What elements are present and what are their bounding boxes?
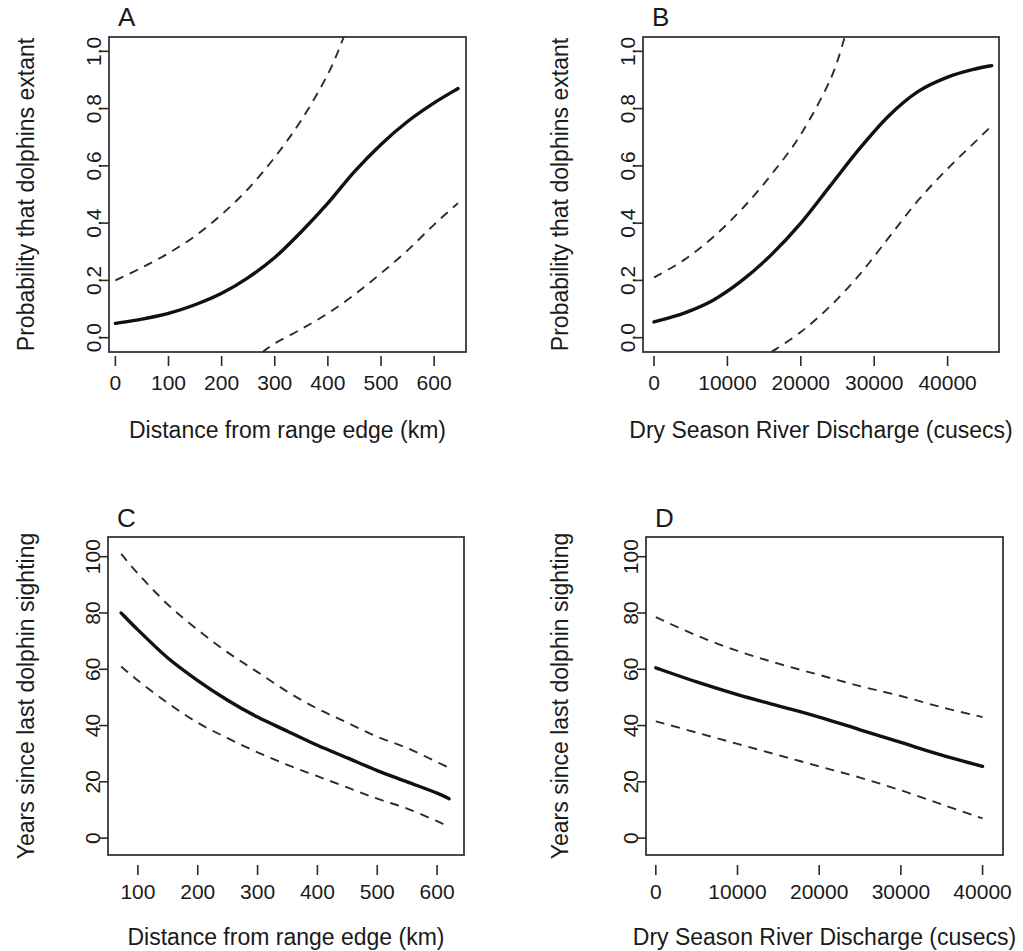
panel-a: 0.00.20.40.60.81.00100200300400500600APr… bbox=[0, 0, 512, 475]
panel-d-plot: 020406080100010000200003000040000DYears … bbox=[511, 475, 1023, 951]
x-tick-label: 600 bbox=[417, 371, 452, 394]
x-tick-label: 10000 bbox=[698, 371, 756, 394]
y-tick-label: 0.8 bbox=[83, 94, 106, 123]
y-tick-label: 20 bbox=[82, 770, 105, 793]
x-tick-label: 300 bbox=[257, 371, 292, 394]
confidence-interval-curve bbox=[656, 721, 983, 818]
y-tick-label: 0.0 bbox=[83, 323, 106, 352]
y-tick-label: 1.0 bbox=[83, 37, 106, 66]
confidence-interval-curve bbox=[656, 617, 983, 717]
x-tick-label: 30000 bbox=[872, 880, 930, 903]
four-panel-figure: 0.00.20.40.60.81.00100200300400500600APr… bbox=[0, 0, 1023, 951]
plot-box-b bbox=[643, 37, 999, 352]
y-tick-label: 1.0 bbox=[617, 37, 640, 66]
x-axis-title: Distance from range edge (km) bbox=[127, 924, 444, 950]
plot-box-c bbox=[108, 537, 464, 855]
confidence-interval-curve bbox=[115, 37, 343, 280]
panel-letter: C bbox=[117, 503, 136, 533]
confidence-interval-curve bbox=[654, 37, 845, 278]
y-tick-label: 0.0 bbox=[617, 323, 640, 352]
confidence-interval-curve bbox=[771, 126, 991, 352]
y-tick-label: 20 bbox=[620, 770, 643, 793]
x-tick-label: 400 bbox=[310, 371, 345, 394]
y-axis-title: Years since last dolphin sighting bbox=[547, 533, 573, 859]
x-tick-label: 400 bbox=[300, 880, 335, 903]
x-axis-title: Dry Season River Discharge (cusecs) bbox=[629, 417, 1012, 443]
x-tick-label: 100 bbox=[151, 371, 186, 394]
x-tick-label: 30000 bbox=[845, 371, 903, 394]
y-tick-label: 0.6 bbox=[617, 151, 640, 180]
x-tick-label: 100 bbox=[120, 880, 155, 903]
y-tick-label: 80 bbox=[620, 601, 643, 624]
x-tick-label: 600 bbox=[420, 880, 455, 903]
y-tick-label: 0.4 bbox=[83, 208, 106, 238]
x-tick-label: 40000 bbox=[918, 371, 976, 394]
y-tick-label: 0.2 bbox=[83, 266, 106, 295]
y-tick-label: 80 bbox=[82, 601, 105, 624]
y-tick-label: 100 bbox=[82, 539, 105, 574]
y-tick-label: 40 bbox=[620, 714, 643, 737]
y-tick-label: 0 bbox=[620, 832, 643, 844]
x-tick-label: 0 bbox=[650, 880, 662, 903]
x-tick-label: 500 bbox=[363, 371, 398, 394]
x-tick-label: 300 bbox=[240, 880, 275, 903]
fitted-curve bbox=[121, 613, 449, 799]
y-tick-label: 60 bbox=[82, 658, 105, 681]
fitted-curve bbox=[654, 66, 992, 322]
x-tick-label: 0 bbox=[110, 371, 122, 394]
y-tick-label: 0.4 bbox=[617, 208, 640, 238]
y-axis-title: Years since last dolphin sighting bbox=[13, 533, 39, 859]
panel-d: 020406080100010000200003000040000DYears … bbox=[511, 475, 1023, 951]
x-tick-label: 20000 bbox=[790, 880, 848, 903]
y-tick-label: 100 bbox=[620, 539, 643, 574]
panel-letter: D bbox=[655, 503, 674, 533]
fitted-curve bbox=[115, 89, 458, 324]
y-tick-label: 0 bbox=[82, 832, 105, 844]
y-tick-label: 0.6 bbox=[83, 151, 106, 180]
x-tick-label: 500 bbox=[360, 880, 395, 903]
x-axis-title: Dry Season River Discharge (cusecs) bbox=[633, 924, 1016, 950]
panel-c: 020406080100100200300400500600CYears sin… bbox=[0, 475, 512, 951]
panel-b-plot: 0.00.20.40.60.81.0010000200003000040000B… bbox=[511, 0, 1023, 475]
y-axis-title: Probability that dolphins extant bbox=[13, 37, 39, 351]
y-tick-label: 0.2 bbox=[617, 266, 640, 295]
panel-c-plot: 020406080100100200300400500600CYears sin… bbox=[0, 475, 512, 951]
y-tick-label: 40 bbox=[82, 714, 105, 737]
x-tick-label: 10000 bbox=[708, 880, 766, 903]
y-tick-label: 0.8 bbox=[617, 94, 640, 123]
y-tick-label: 60 bbox=[620, 658, 643, 681]
fitted-curve bbox=[656, 668, 983, 766]
panel-a-plot: 0.00.20.40.60.81.00100200300400500600APr… bbox=[0, 0, 512, 475]
confidence-interval-curve bbox=[263, 203, 459, 352]
x-tick-label: 20000 bbox=[772, 371, 830, 394]
panel-b: 0.00.20.40.60.81.0010000200003000040000B… bbox=[511, 0, 1023, 475]
panel-letter: B bbox=[652, 2, 669, 32]
x-axis-title: Distance from range edge (km) bbox=[129, 417, 446, 443]
x-tick-label: 200 bbox=[180, 880, 215, 903]
x-tick-label: 40000 bbox=[953, 880, 1011, 903]
y-axis-title: Probability that dolphins extant bbox=[547, 37, 573, 351]
x-tick-label: 200 bbox=[204, 371, 239, 394]
x-tick-label: 0 bbox=[648, 371, 660, 394]
panel-letter: A bbox=[118, 2, 136, 32]
plot-box-a bbox=[109, 37, 466, 352]
